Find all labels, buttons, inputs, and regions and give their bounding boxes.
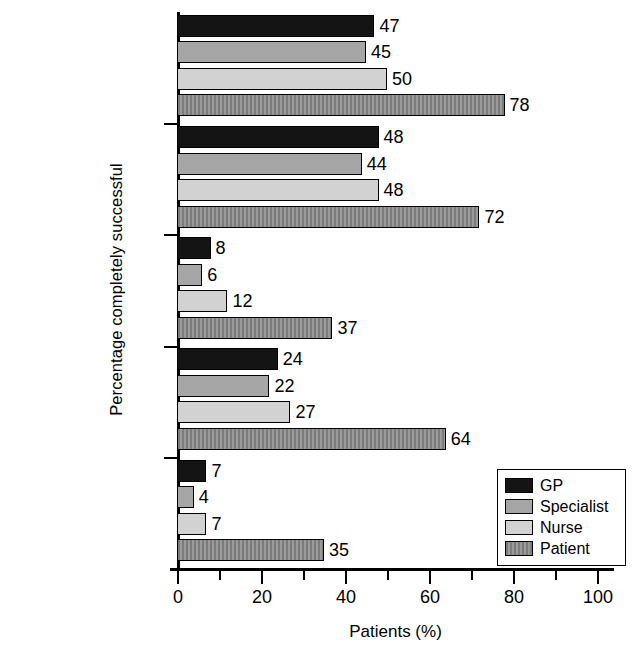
bar-patient-diet (177, 317, 332, 339)
bar-patient-taking-medication (177, 94, 505, 116)
legend: GPSpecialistNursePatient (497, 469, 626, 566)
legend-item-specialist[interactable]: Specialist (505, 496, 619, 517)
bar-value-label: 6 (207, 264, 217, 286)
legend-item-nurse[interactable]: Nurse (505, 517, 619, 538)
bar-value-label: 37 (337, 317, 357, 339)
y-axis-group-tick (164, 234, 178, 236)
x-axis-tick (429, 571, 431, 584)
x-axis-tick-label: 80 (484, 587, 544, 608)
bar-value-label: 45 (371, 41, 391, 63)
bar-value-label: 8 (216, 237, 226, 259)
bar-value-label: 72 (484, 206, 504, 228)
x-axis-title: Patients (%) (177, 622, 614, 642)
bar-specialist-exercise (177, 486, 194, 508)
x-axis-minor-tick (303, 571, 305, 580)
bar-patient-keeping-appointments (177, 206, 479, 228)
y-axis-group-tick (164, 457, 178, 459)
bar-value-label: 7 (211, 513, 221, 535)
bar-specialist-diet (177, 264, 202, 286)
bar-nurse-keeping-appointments (177, 179, 379, 201)
x-axis-tick-label: 60 (400, 587, 460, 608)
y-axis-group-tick (164, 123, 178, 125)
legend-swatch-icon (505, 499, 533, 514)
bar-gp-taking-medication (177, 15, 374, 37)
x-axis-minor-tick (219, 571, 221, 580)
bar-value-label: 22 (274, 375, 294, 397)
x-axis-tick (177, 571, 179, 584)
x-axis-line (170, 568, 614, 571)
x-axis-tick-label: 20 (232, 587, 292, 608)
legend-label: Patient (540, 540, 590, 557)
bar-value-label: 24 (283, 348, 303, 370)
legend-item-gp[interactable]: GP (505, 475, 619, 496)
bar-nurse-exercise (177, 513, 206, 535)
legend-swatch-icon (505, 478, 533, 493)
bar-value-label: 50 (392, 68, 412, 90)
legend-label: GP (540, 477, 563, 494)
bar-nurse-self-testing (177, 401, 290, 423)
bar-value-label: 35 (329, 539, 349, 561)
x-axis-tick (597, 571, 599, 584)
bar-nurse-diet (177, 290, 227, 312)
x-axis-tick-label: 100 (568, 587, 628, 608)
legend-label: Nurse (540, 519, 583, 536)
bar-value-label: 47 (379, 15, 399, 37)
x-axis-tick (345, 571, 347, 584)
bar-gp-keeping-appointments (177, 126, 379, 148)
bar-value-label: 78 (510, 94, 530, 116)
bar-specialist-self-testing (177, 375, 269, 397)
y-axis-group-tick (164, 346, 178, 348)
bar-value-label: 44 (367, 153, 387, 175)
bar-gp-diet (177, 237, 211, 259)
bar-chart: Percentage completely successful 4745507… (0, 0, 642, 663)
legend-swatch-icon (505, 541, 533, 556)
legend-item-patient[interactable]: Patient (505, 538, 619, 559)
x-axis-tick (261, 571, 263, 584)
x-axis-minor-tick (471, 571, 473, 580)
bar-value-label: 27 (295, 401, 315, 423)
bar-gp-exercise (177, 460, 206, 482)
bar-specialist-taking-medication (177, 41, 366, 63)
bar-value-label: 12 (232, 290, 252, 312)
x-axis-tick-label: 0 (148, 587, 208, 608)
x-axis-minor-tick (555, 571, 557, 580)
legend-swatch-icon (505, 520, 533, 535)
legend-label: Specialist (540, 498, 608, 515)
bar-value-label: 48 (384, 126, 404, 148)
y-axis-title: Percentage completely successful (107, 70, 126, 510)
x-axis-tick (513, 571, 515, 584)
bar-specialist-keeping-appointments (177, 153, 362, 175)
bar-value-label: 4 (199, 486, 209, 508)
x-axis-tick-label: 40 (316, 587, 376, 608)
bar-value-label: 64 (451, 428, 471, 450)
bar-patient-self-testing (177, 428, 446, 450)
bar-patient-exercise (177, 539, 324, 561)
bar-value-label: 48 (384, 179, 404, 201)
x-axis-minor-tick (387, 571, 389, 580)
bar-value-label: 7 (211, 460, 221, 482)
bar-gp-self-testing (177, 348, 278, 370)
bar-nurse-taking-medication (177, 68, 387, 90)
